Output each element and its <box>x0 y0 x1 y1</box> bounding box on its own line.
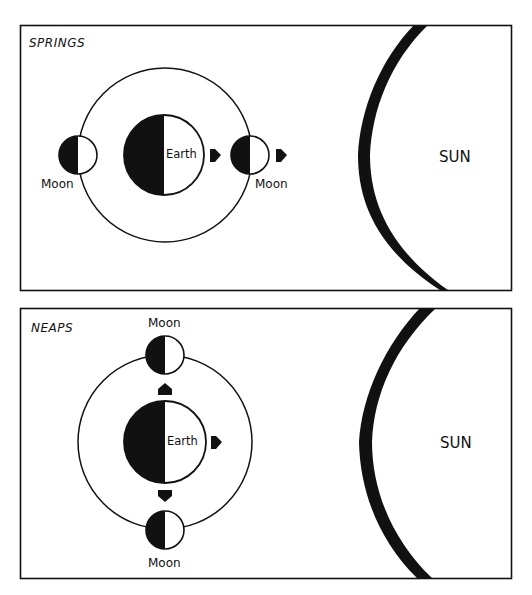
moon-icon-right <box>231 136 269 174</box>
sun-label: SUN <box>440 434 472 452</box>
moon-label-left: Moon <box>41 177 74 191</box>
neaps-panel <box>21 308 512 579</box>
moon-icon-top <box>146 336 184 374</box>
earth-label: Earth <box>167 434 198 448</box>
neaps-title: NEAPS <box>31 321 73 335</box>
earth-label: Earth <box>166 147 197 161</box>
moon-icon-left <box>59 136 97 174</box>
moon-label-bottom: Moon <box>148 556 181 570</box>
sun-label: SUN <box>439 148 471 166</box>
neaps-panel-frame <box>21 309 512 579</box>
moon-label-top: Moon <box>148 316 181 330</box>
moon-label-right: Moon <box>255 177 288 191</box>
springs-title: SPRINGS <box>29 36 85 50</box>
tides-diagram: SPRINGS Earth Moon Moon SUN NEAPS Moon E… <box>0 0 532 595</box>
springs-panel <box>21 25 512 291</box>
moon-icon-bottom <box>146 511 184 549</box>
